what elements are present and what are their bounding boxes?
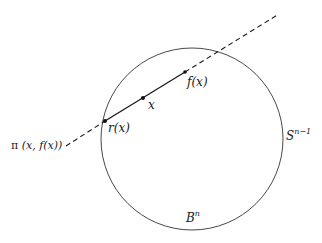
label-ball: Bn [186,210,200,224]
diagram-canvas: f(x) x r(x) π (x, f(x)) Sn−1 Bn [0,0,322,243]
label-ball-base: B [186,211,195,225]
point-fx [183,70,187,74]
point-x [141,96,145,100]
label-ball-exp: n [195,209,200,218]
label-fx: f(x) [187,76,208,88]
diagram-svg [0,0,322,243]
dashed-ray-left [66,121,105,146]
point-rx [103,119,107,123]
solid-segment [105,72,185,121]
label-sphere: Sn−1 [286,128,311,142]
label-pi-args: (x, f(x)) [22,139,63,152]
label-sphere-exp: n−1 [294,127,311,136]
label-pi-symbol: π [11,139,18,152]
label-pi: π (x, f(x)) [11,140,62,151]
label-rx: r(x) [108,122,130,134]
label-sphere-base: S [286,129,294,143]
label-x: x [148,99,155,111]
dashed-ray-right [185,14,279,72]
